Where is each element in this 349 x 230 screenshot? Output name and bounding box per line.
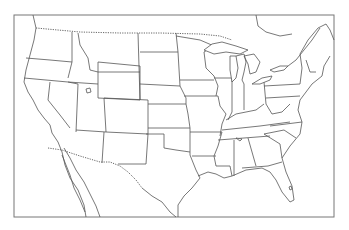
map-frame (14, 15, 334, 217)
lake-ontario (270, 66, 288, 72)
co-box (104, 98, 148, 134)
az-nm (102, 132, 104, 163)
pa-ny (264, 84, 300, 86)
tx-outline (178, 128, 200, 217)
lake-michigan (230, 56, 238, 82)
sd-ne (140, 84, 180, 86)
ca-nv (48, 82, 70, 128)
lake-superior (204, 42, 248, 54)
la-ms (214, 156, 232, 176)
va-wv (266, 104, 290, 114)
ut-az (76, 130, 106, 132)
lake-huron (244, 54, 260, 74)
ia-il (214, 76, 218, 96)
gulf-fl (232, 158, 294, 202)
oh-pa (264, 82, 266, 104)
wy-box (98, 62, 140, 100)
md-pa (266, 96, 300, 98)
lake-okeechobee (289, 186, 292, 190)
mn-wi (176, 36, 214, 76)
mt-id (78, 33, 98, 72)
la-coast (198, 172, 232, 178)
or-south (24, 78, 68, 82)
dakotas-east (176, 33, 186, 98)
ar-east (214, 132, 222, 156)
us-canada-border (36, 28, 232, 40)
ut-co (104, 98, 106, 132)
ky-tn (222, 122, 290, 130)
ga-sc (264, 134, 282, 158)
wa-or-border (26, 58, 72, 62)
atlantic-coast (282, 56, 330, 158)
vt-nh (306, 60, 316, 72)
tx-rio-grande (142, 188, 176, 217)
great-salt-lake (86, 88, 91, 93)
fl-ga (242, 162, 282, 168)
nv-east (68, 82, 78, 132)
il-in (228, 78, 232, 120)
gulf-of-california (64, 148, 100, 217)
hudson-bay-coast (256, 15, 292, 36)
lake-lanier (236, 138, 242, 141)
nm-east (118, 134, 148, 164)
al-ga (248, 138, 256, 166)
id-west (68, 32, 72, 78)
outline-map (0, 0, 349, 230)
tn-south (218, 136, 270, 140)
ks-east (186, 98, 190, 128)
lake-erie (252, 76, 272, 84)
ok-panhandle (146, 134, 190, 152)
map-svg (0, 0, 349, 230)
